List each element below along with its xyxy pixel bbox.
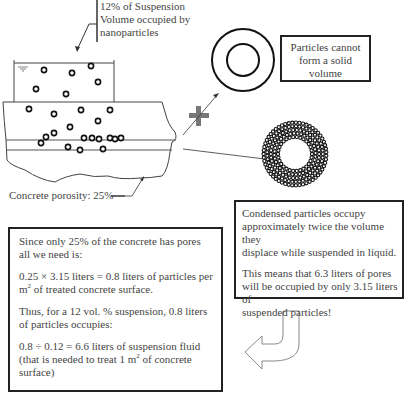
calculation-box: Since only 25% of the concrete has pores…	[8, 227, 223, 392]
arrow-to-condensed-ring	[183, 149, 275, 162]
box-line: surface)	[19, 366, 221, 379]
box-line: displace while suspended in liquid.	[242, 246, 402, 259]
box-line: approximately twice the volume they	[242, 220, 402, 246]
box-line: of particles occupies:	[19, 318, 221, 331]
text-span: (that is needed to treat 1 m	[19, 353, 136, 365]
box-line: m2 of treated concrete surface.	[19, 283, 221, 296]
suspension-note-pointer	[75, 0, 97, 52]
hollow-ring-icon	[212, 29, 274, 91]
suspension-note-line: nanoparticles	[100, 26, 190, 39]
condensed-particle-ring-icon	[262, 121, 328, 187]
box-line: volume	[282, 67, 369, 80]
box-line: Particles cannot	[282, 41, 369, 54]
condensed-particles-box: Condensed particles occupy approximately…	[234, 200, 404, 299]
text-span: m	[19, 283, 28, 295]
box-line: form a solid	[282, 54, 369, 67]
suspension-note-line: 12% of Suspension	[100, 0, 190, 13]
box-line: Condensed particles occupy	[242, 207, 402, 220]
text-span: of treated concrete surface.	[31, 283, 153, 295]
box-line: suspended particles!	[242, 306, 402, 319]
arrow-to-hollow-ring	[183, 93, 219, 135]
suspension-note-label: 12% of Suspension Volume occupied by nan…	[100, 0, 190, 39]
concrete-slab	[3, 102, 176, 182]
liquid-level-icon	[18, 67, 28, 71]
box-line: 0.25 × 3.15 liters = 0.8 liters of parti…	[19, 270, 221, 283]
box-line: Since only 25% of the concrete has pores	[19, 235, 221, 248]
box-line: (that is needed to treat 1 m2 of concret…	[19, 353, 221, 366]
curved-return-arrow-icon	[245, 311, 299, 369]
box-line: all we need is:	[19, 248, 221, 261]
particles-cannot-form-solid-box: Particles cannot form a solid volume	[280, 35, 371, 82]
text-span: of concrete	[140, 353, 192, 365]
suspension-note-line: Volume occupied by	[100, 13, 190, 26]
box-line: will be occupied by only 3.15 liters of	[242, 280, 402, 306]
box-line: 0.8 ÷ 0.12 = 6.6 liters of suspension fl…	[19, 340, 221, 353]
box-line: Thus, for a 12 vol. % suspension, 0.8 li…	[19, 305, 221, 318]
box-line: This means that 6.3 liters of pores	[242, 267, 402, 280]
porosity-label: Concrete porosity: 25%	[9, 189, 113, 202]
